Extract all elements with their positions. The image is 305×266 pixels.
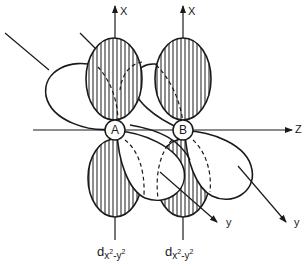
atom-a-label: A [105,120,125,140]
lobe-b-x-up [155,38,211,120]
x-axis-a-label: X [120,6,127,17]
orbital-label-a: dx2-y2 [97,245,125,258]
y-axis-b-front [238,166,286,222]
z-axis-label: Z [295,124,302,135]
x-axis-b-label: X [188,6,195,17]
y-axis-a-label: y [226,217,232,228]
y-axis-b-back [80,33,97,50]
y-axis-b-label: y [294,217,300,228]
orbital-overlap-diagram [0,0,305,266]
orbital-label-b: dx2-y2 [165,245,193,258]
y-axis-a-back [5,33,49,70]
lobe-a-x-up [86,38,142,120]
atom-b-label: B [173,120,193,140]
